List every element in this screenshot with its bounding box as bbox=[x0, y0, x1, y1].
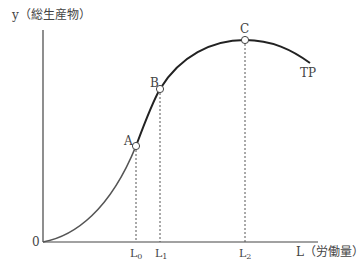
point-a-label: A bbox=[124, 135, 133, 147]
tick-label-l0: L0 bbox=[130, 248, 142, 261]
tp-curve-concave bbox=[136, 40, 310, 146]
tp-curve-convex bbox=[43, 146, 136, 242]
tick-label-l1: L1 bbox=[155, 248, 167, 261]
origin-label: 0 bbox=[32, 236, 40, 248]
point-c-marker bbox=[241, 36, 248, 43]
point-c-label: C bbox=[240, 23, 249, 35]
point-b-label: B bbox=[150, 77, 159, 89]
tp-curve-label: TP bbox=[300, 67, 316, 79]
point-a-marker bbox=[132, 142, 139, 149]
y-axis-label: y（総生産物） bbox=[12, 9, 91, 21]
x-axis-label: L（労働量） bbox=[296, 246, 361, 258]
tick-label-l2: L2 bbox=[239, 248, 251, 261]
